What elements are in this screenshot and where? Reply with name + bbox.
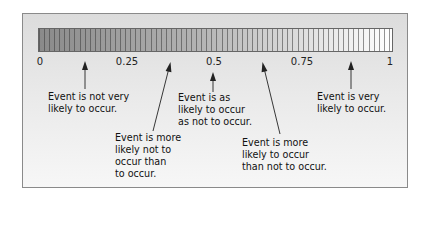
label-line: likely to occur <box>178 104 252 116</box>
label-line: as not to occur. <box>178 116 252 128</box>
label-line: Event is very <box>317 91 386 103</box>
arrow-more-likely-icon <box>262 62 280 134</box>
label-line: than not to occur. <box>242 161 327 173</box>
label-line: Event is more <box>115 132 181 144</box>
arrow-more-likely-not-icon <box>153 62 171 131</box>
label-line: likely to occur. <box>317 103 386 115</box>
arrow-as-likely-icon <box>210 72 216 92</box>
label-line: Event is more <box>242 137 327 149</box>
label-line: likely not to <box>115 144 181 156</box>
label-line: to occur. <box>115 168 181 180</box>
arrow-not-very-likely-icon <box>82 61 88 89</box>
label-more-likely-not: Event is more likely not to occur than t… <box>115 132 181 180</box>
label-more-likely: Event is more likely to occur than not t… <box>242 137 327 173</box>
label-line: Event is as <box>178 92 252 104</box>
arrow-very-likely-icon <box>348 61 354 89</box>
label-not-very-likely: Event is not very likely to occur. <box>48 91 129 115</box>
label-line: likely to occur. <box>48 103 129 115</box>
label-line: occur than <box>115 156 181 168</box>
label-line: Event is not very <box>48 91 129 103</box>
label-line: likely to occur <box>242 149 327 161</box>
label-as-likely: Event is as likely to occur as not to oc… <box>178 92 252 128</box>
label-very-likely: Event is very likely to occur. <box>317 91 386 115</box>
